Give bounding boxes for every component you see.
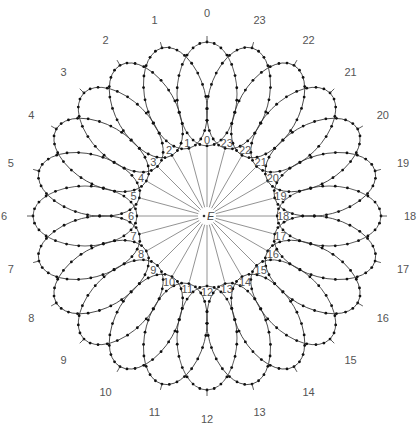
orbit-dot bbox=[80, 253, 83, 256]
orbit-dot bbox=[252, 350, 255, 353]
orbit-dot bbox=[199, 138, 202, 141]
orbit-dot bbox=[138, 240, 141, 243]
orbit-loop bbox=[41, 103, 161, 207]
orbit-dot bbox=[346, 278, 349, 281]
orbit-dot bbox=[186, 376, 189, 379]
orbit-dot bbox=[165, 290, 168, 293]
orbit-dot bbox=[143, 355, 146, 358]
orbit-dot bbox=[103, 275, 106, 278]
orbit-dot bbox=[356, 275, 359, 278]
orbit-dot bbox=[317, 284, 320, 287]
outer-hour-label: 12 bbox=[201, 413, 213, 425]
orbit-dot bbox=[63, 205, 66, 208]
outer-hour-label: 1 bbox=[151, 14, 157, 26]
orbit-dot bbox=[181, 366, 184, 369]
orbit-dot bbox=[225, 298, 228, 301]
inner-hour-label: 12 bbox=[201, 286, 213, 298]
orbit-dot bbox=[181, 133, 184, 136]
center-label: E bbox=[207, 210, 215, 222]
orbit-dot bbox=[113, 161, 116, 164]
orbit-dot bbox=[116, 339, 119, 342]
outer-hour-label: 21 bbox=[344, 66, 356, 78]
outer-hour-label: 8 bbox=[28, 312, 34, 324]
inner-hour-label: 14 bbox=[239, 276, 251, 288]
orbit-dot bbox=[221, 367, 224, 370]
orbit-dot bbox=[178, 111, 181, 114]
inner-hour-label: 7 bbox=[131, 230, 137, 242]
orbit-dot bbox=[190, 367, 193, 370]
orbit-dot bbox=[147, 153, 150, 156]
orbit-dot bbox=[324, 312, 327, 315]
orbit-dot bbox=[264, 153, 267, 156]
orbit-dot bbox=[86, 216, 89, 219]
orbit-dot bbox=[98, 309, 101, 312]
orbit-dot bbox=[194, 144, 197, 147]
orbit-dot bbox=[260, 358, 263, 361]
outer-hour-label: 6 bbox=[1, 210, 7, 222]
orbit-dot bbox=[259, 122, 262, 125]
outer-hour-label: 22 bbox=[302, 34, 314, 46]
orbit-dot bbox=[357, 239, 360, 242]
orbit-dot bbox=[228, 54, 231, 57]
outer-hour-label: 14 bbox=[302, 386, 314, 398]
outer-hour-label: 10 bbox=[99, 386, 111, 398]
orbit-dot bbox=[268, 331, 271, 334]
orbit-dot bbox=[230, 122, 233, 125]
orbit-dot bbox=[74, 219, 77, 222]
orbit-dot bbox=[180, 142, 183, 145]
orbit-dot bbox=[79, 98, 82, 101]
orbit-dot bbox=[77, 185, 80, 188]
orbit-dot bbox=[108, 333, 111, 336]
orbit-dot bbox=[334, 106, 337, 109]
orbit-dot bbox=[271, 185, 274, 188]
orbit-dot bbox=[264, 277, 267, 280]
outer-tick bbox=[358, 303, 363, 306]
orbit-dot bbox=[124, 190, 127, 193]
orbit-dot bbox=[257, 379, 260, 382]
orbit-dot bbox=[142, 86, 145, 89]
orbit-dot bbox=[183, 375, 186, 378]
orbit-dot bbox=[136, 326, 139, 329]
orbit-dot bbox=[138, 189, 141, 192]
orbit-dot bbox=[126, 95, 129, 98]
orbit-dot bbox=[333, 98, 336, 101]
orbit-dot bbox=[109, 125, 112, 128]
orbit-dot bbox=[269, 343, 272, 346]
orbit-dot bbox=[302, 305, 305, 308]
orbit-dot bbox=[325, 213, 328, 216]
orbit-dot bbox=[158, 298, 161, 301]
orbit-dot bbox=[322, 277, 325, 280]
orbit-dot bbox=[45, 234, 48, 237]
inner-hour-label: 23 bbox=[221, 137, 233, 149]
orbit-dot bbox=[251, 270, 254, 273]
orbit-dot bbox=[145, 250, 148, 253]
orbit-dot bbox=[108, 96, 111, 99]
inner-hour-label: 17 bbox=[274, 230, 286, 242]
orbit-dot bbox=[98, 214, 101, 217]
orbit-dot bbox=[364, 272, 367, 275]
orbit-dot bbox=[140, 244, 143, 247]
orbit-dot bbox=[315, 343, 318, 346]
orbit-dot bbox=[147, 173, 150, 176]
orbit-dot bbox=[210, 83, 213, 86]
orbit-dot bbox=[110, 215, 113, 218]
inner-hour-label: 22 bbox=[239, 144, 251, 156]
orbit-dot bbox=[246, 140, 249, 143]
orbit-dot bbox=[138, 147, 141, 150]
orbit-dot bbox=[275, 103, 278, 106]
orbit-dot bbox=[268, 98, 271, 101]
orbit-dot bbox=[225, 54, 228, 57]
orbit-dot bbox=[278, 62, 281, 65]
orbit-dot bbox=[41, 163, 44, 166]
orbit-dot bbox=[178, 318, 181, 321]
orbit-dot bbox=[374, 177, 377, 180]
orbit-dot bbox=[102, 242, 105, 245]
outer-hour-label: 19 bbox=[397, 157, 409, 169]
orbit-dot bbox=[78, 314, 81, 317]
orbit-dot bbox=[70, 169, 73, 172]
orbit-dot bbox=[302, 353, 305, 356]
orbit-dot bbox=[358, 230, 361, 233]
outer-tick bbox=[117, 60, 120, 65]
orbit-dot bbox=[230, 307, 233, 310]
orbit-dot bbox=[154, 379, 157, 382]
